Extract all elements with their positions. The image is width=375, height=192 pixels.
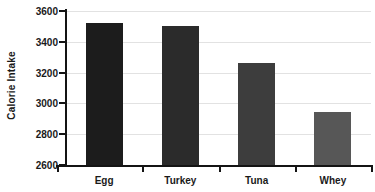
x-axis-tick-mark: [371, 165, 373, 172]
y-axis-tick-label: 3000: [36, 98, 58, 109]
bar-turkey: [162, 26, 199, 165]
x-axis-tick-mark: [142, 165, 144, 172]
x-axis-tick-label-turkey: Turkey: [164, 175, 196, 186]
y-axis-tick-mark: [59, 72, 67, 74]
x-axis-tick-mark: [219, 165, 221, 172]
x-axis-tick-mark: [295, 165, 297, 172]
y-axis-tick-labels: 260028003000320034003600: [22, 0, 62, 192]
y-axis-tick-mark: [59, 41, 67, 43]
x-axis-tick-mark: [57, 165, 59, 172]
y-axis-tick-label: 2800: [36, 129, 58, 140]
y-axis-line: [65, 9, 67, 167]
x-axis-tick-label-whey: Whey: [320, 175, 347, 186]
y-axis-title: Calorie Intake: [0, 0, 22, 170]
x-axis-tick-label-egg: Egg: [95, 175, 114, 186]
bar-whey: [314, 112, 351, 165]
y-axis-tick-label: 3200: [36, 67, 58, 78]
y-axis-tick-label: 3400: [36, 36, 58, 47]
bar-tuna: [238, 63, 275, 165]
y-axis-tick-mark: [59, 10, 67, 12]
y-axis-tick-label: 2600: [36, 160, 58, 171]
y-axis-tick-label: 3600: [36, 6, 58, 17]
y-axis-tick-mark: [59, 133, 67, 135]
x-axis-line: [56, 165, 371, 167]
y-axis-tick-mark: [59, 164, 67, 166]
gridline: [66, 11, 371, 12]
x-axis-tick-label-tuna: Tuna: [245, 175, 268, 186]
y-axis-title-label: Calorie Intake: [6, 51, 17, 119]
bar-egg: [86, 23, 123, 165]
bar-chart: Calorie Intake 260028003000320034003600 …: [0, 0, 375, 192]
y-axis-tick-mark: [59, 102, 67, 104]
plot-area: [66, 11, 371, 165]
